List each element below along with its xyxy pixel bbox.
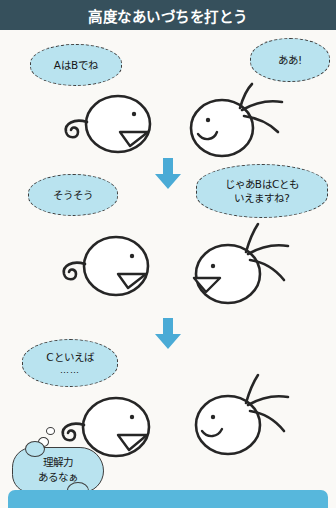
comic-panel-1: AはBでね ああ! — [0, 30, 336, 160]
speech-bubble-panel2-right: じゃあBはCとも いえますね? — [196, 164, 328, 218]
speech-bubble-panel1-left: AはBでね — [30, 44, 122, 86]
bubble-line: ああ! — [278, 53, 302, 67]
character-spiky-panel1 — [182, 80, 302, 158]
page-root: 高度なあいづちを打とう AはBでね ああ! — [0, 0, 336, 508]
bubble-line: いえますね? — [234, 191, 290, 205]
page-title: 高度なあいづちを打とう — [88, 5, 248, 26]
bubble-line: AはBでね — [54, 58, 98, 72]
comic-panel-2: そうそう じゃあBはCとも いえますね? — [0, 160, 336, 315]
character-curly-panel1 — [56, 92, 166, 154]
character-spiky-panel2 — [186, 222, 310, 308]
comic-panel-3: Cといえば …… 理解力 あるなぁ — [0, 315, 336, 490]
footer-bar — [8, 490, 328, 508]
thought-puff-small — [46, 427, 55, 435]
bubble-line: そうそう — [53, 188, 93, 202]
title-bar: 高度なあいづちを打とう — [0, 0, 336, 30]
character-curly-panel2 — [52, 232, 164, 298]
comic-strip: AはBでね ああ! — [0, 30, 336, 490]
speech-bubble-panel2-left: そうそう — [28, 174, 118, 216]
bubble-line: …… — [60, 364, 80, 376]
bubble-line: あるなぁ — [38, 470, 78, 485]
bubble-line: 理解力 — [43, 455, 73, 470]
thought-bubble-panel3: 理解力 あるなぁ — [12, 447, 104, 493]
bubble-line: じゃあBはCとも — [225, 177, 300, 191]
speech-bubble-panel1-right: ああ! — [250, 38, 330, 82]
speech-bubble-panel3-left: Cといえば …… — [22, 339, 118, 387]
bubble-line: Cといえば — [46, 350, 93, 364]
character-spiky-panel3 — [186, 371, 310, 461]
